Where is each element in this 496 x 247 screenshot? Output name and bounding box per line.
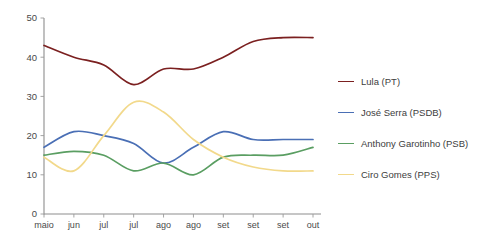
series-line: [44, 37, 313, 84]
y-tick-label: 50: [26, 12, 37, 23]
x-tick-label: ago: [186, 220, 201, 230]
legend-item-label: Lula (PT): [361, 76, 400, 87]
x-axis: [44, 214, 321, 218]
y-axis: 01020304050: [26, 12, 44, 219]
legend-item-label: Ciro Gomes (PPS): [361, 169, 440, 180]
x-tick-label: jul: [128, 220, 138, 230]
x-tick-label: maio: [34, 220, 54, 230]
x-tick-labels: maiojunjuljulagoagosetsetsetout: [34, 220, 320, 230]
legend-item[interactable]: Anthony Garotinho (PSB): [338, 128, 496, 159]
chart-container: 01020304050 maiojunjuljulagoagosetsetset…: [0, 0, 496, 247]
legend-item[interactable]: Lula (PT): [338, 66, 496, 97]
series-line: [44, 101, 313, 171]
y-tick-label: 0: [32, 208, 37, 219]
y-tick-label: 20: [26, 130, 37, 141]
legend-item-label: José Serra (PSDB): [361, 107, 442, 118]
series-lines: [44, 37, 313, 175]
legend-item-label: Anthony Garotinho (PSB): [361, 138, 468, 149]
series-line: [44, 131, 313, 163]
legend-item[interactable]: Ciro Gomes (PPS): [338, 159, 496, 190]
chart-legend: Lula (PT)José Serra (PSDB)Anthony Garoti…: [338, 66, 496, 190]
x-tick-label: jul: [98, 220, 108, 230]
x-tick-label: out: [307, 220, 320, 230]
y-tick-label: 40: [26, 52, 37, 63]
legend-color-swatch: [338, 143, 354, 144]
x-tick-label: jun: [67, 220, 80, 230]
x-tick-label: set: [277, 220, 290, 230]
legend-item[interactable]: José Serra (PSDB): [338, 97, 496, 128]
x-tick-label: set: [247, 220, 260, 230]
chart-svg: 01020304050 maiojunjuljulagoagosetsetset…: [0, 0, 330, 247]
y-tick-label: 30: [26, 91, 37, 102]
legend-color-swatch: [338, 174, 354, 175]
y-tick-label: 10: [26, 169, 37, 180]
x-tick-label: set: [217, 220, 230, 230]
line-chart-plot: 01020304050 maiojunjuljulagoagosetsetset…: [0, 0, 330, 247]
legend-color-swatch: [338, 112, 354, 113]
legend-color-swatch: [338, 81, 354, 82]
x-tick-label: ago: [156, 220, 171, 230]
